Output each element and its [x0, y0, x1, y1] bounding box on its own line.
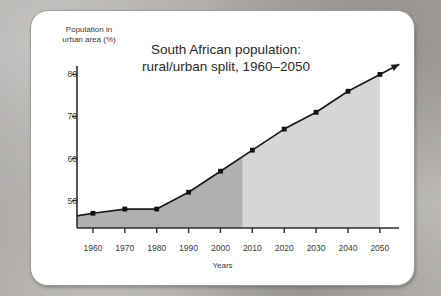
chart-card: Population in urban area (%) South Afric…: [30, 10, 415, 286]
area-historical: [77, 156, 243, 228]
area-projected: [243, 74, 380, 228]
chart-plot-area: [31, 11, 414, 285]
